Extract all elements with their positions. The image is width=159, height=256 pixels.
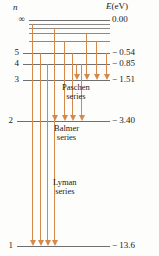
level-number-label: 5 [5, 47, 19, 57]
transition-arrowhead-icon [70, 115, 76, 121]
level-energy-label: − 3.40 [112, 115, 135, 125]
level-number-label: 3 [5, 74, 19, 84]
transition-arrowhead-icon [62, 115, 68, 121]
energy-level-line [29, 24, 110, 25]
transition-arrow [96, 41, 97, 75]
series-label: Lymanseries [53, 178, 77, 196]
level-number-label: ∞ [11, 14, 25, 24]
level-number-label: 4 [5, 58, 19, 68]
transition-arrowhead-icon [84, 74, 90, 80]
level-energy-label: − 1.51 [112, 74, 135, 84]
series-label-line: series [53, 187, 77, 196]
energy-level-line [29, 41, 110, 42]
level-energy-label: 0.00 [112, 14, 128, 24]
level-energy-label: − 13.6 [112, 240, 135, 250]
transition-arrowhead-icon [52, 240, 58, 246]
energy-level-line [29, 28, 110, 29]
transition-arrow [106, 53, 107, 75]
transition-arrow [54, 80, 55, 241]
transition-arrow [40, 53, 41, 241]
axis-label-n: n [13, 2, 18, 12]
axis-label-energy: E(eV) [106, 1, 128, 11]
level-number-label: 1 [0, 240, 13, 250]
energy-level-diagram: n E(eV) ∞0.005− 0.544− 0.853− 1.512− 3.4… [0, 0, 159, 256]
series-label-line: series [54, 133, 79, 142]
transition-arrow [47, 64, 48, 241]
transition-arrowhead-icon [45, 240, 51, 246]
transition-arrow [86, 33, 87, 75]
level-energy-label: − 0.54 [112, 47, 135, 57]
level-number-label: 2 [0, 115, 13, 125]
transition-arrowhead-icon [94, 74, 100, 80]
energy-level-line [17, 121, 110, 122]
energy-level-line [23, 80, 110, 81]
transition-arrow [32, 24, 33, 241]
energy-level-line [17, 246, 110, 247]
energy-level-line [29, 33, 110, 34]
series-label: Paschenseries [62, 83, 90, 101]
transition-arrowhead-icon [38, 240, 44, 246]
level-energy-label: − 0.85 [112, 58, 135, 68]
series-label: Balmerseries [54, 124, 79, 142]
transition-arrow [64, 41, 65, 116]
energy-level-line [29, 20, 110, 21]
transition-arrowhead-icon [74, 74, 80, 80]
axis-label-energy-unit: (eV) [112, 1, 129, 11]
transition-arrowhead-icon [104, 74, 110, 80]
transition-arrowhead-icon [30, 240, 36, 246]
series-label-line: series [62, 92, 90, 101]
transition-arrowhead-icon [79, 115, 85, 121]
